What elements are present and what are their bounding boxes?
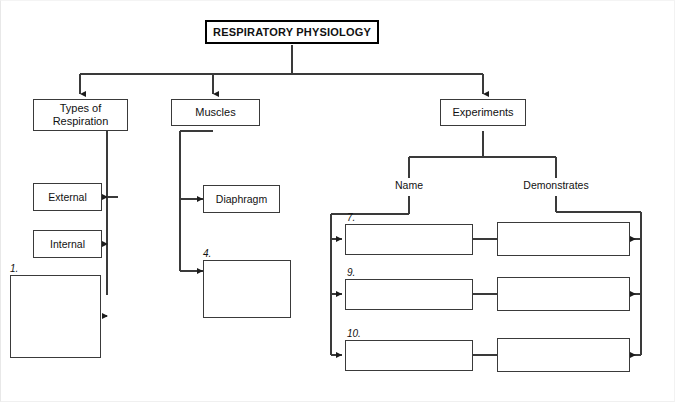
blank-box-4[interactable]: [203, 260, 291, 318]
node-external-label: External: [48, 191, 87, 203]
node-internal: Internal: [33, 230, 102, 258]
experiment-demonstrates-box-10[interactable]: [497, 338, 630, 372]
node-external: External: [33, 183, 102, 211]
node-muscles-label: Muscles: [195, 106, 235, 119]
node-internal-label: Internal: [50, 238, 85, 250]
experiment-demonstrates-box-9[interactable]: [497, 277, 630, 311]
column-header-demonstrates: Demonstrates: [510, 179, 602, 191]
node-experiments: Experiments: [440, 99, 526, 126]
blank-4-number: 4.: [203, 248, 211, 259]
experiment-row-number-9: 9.: [347, 267, 355, 278]
node-experiments-label: Experiments: [452, 106, 513, 119]
blank-1-number: 1.: [10, 263, 18, 274]
node-muscles: Muscles: [171, 99, 260, 126]
experiment-name-box-9[interactable]: [345, 279, 473, 310]
blank-box-1[interactable]: [10, 275, 101, 358]
column-header-name: Name: [379, 179, 439, 191]
node-diaphragm-label: Diaphragm: [216, 193, 267, 205]
node-title-label: RESPIRATORY PHYSIOLOGY: [213, 26, 371, 39]
node-diaphragm: Diaphragm: [203, 185, 280, 213]
worksheet-canvas: RESPIRATORY PHYSIOLOGY Types of Respirat…: [0, 0, 676, 403]
node-types-of-respiration-label: Types of Respiration: [53, 102, 109, 128]
experiment-name-box-10[interactable]: [345, 340, 473, 371]
experiment-demonstrates-box-7[interactable]: [497, 222, 630, 256]
experiment-row-number-7: 7.: [347, 212, 355, 223]
experiment-row-number-10: 10.: [347, 328, 361, 339]
node-title-respiratory-physiology: RESPIRATORY PHYSIOLOGY: [205, 20, 379, 44]
experiment-name-box-7[interactable]: [345, 224, 473, 255]
node-types-of-respiration: Types of Respiration: [33, 99, 128, 131]
